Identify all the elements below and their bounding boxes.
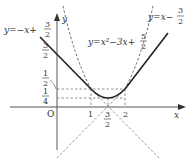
- line-right-label: y=x− 3 2: [147, 6, 184, 26]
- svg-text:1: 1: [43, 87, 48, 96]
- x-tick-1: 1: [88, 110, 93, 119]
- y-tick-1-4: 1 4: [42, 87, 49, 106]
- parabola-solid: [91, 89, 125, 98]
- svg-text:5: 5: [141, 32, 146, 41]
- svg-text:3: 3: [105, 110, 110, 119]
- svg-text:y=x−: y=x−: [147, 12, 173, 22]
- origin-label: O: [47, 109, 54, 119]
- x-axis-label: x: [174, 110, 179, 120]
- y-axis-label: y: [61, 14, 68, 24]
- parabola-dashed: [63, 6, 153, 89]
- svg-text:4: 4: [43, 97, 48, 106]
- x-axis-arrow-icon: [178, 104, 186, 110]
- line-left-label: y=−x+ 3 2: [3, 20, 51, 39]
- x-tick-3-2: 3 2: [104, 110, 111, 129]
- graph-figure: y=−x+ 3 2 y=x− 3 2 y=x²−3x+ 5 2 y x O 3 …: [0, 0, 190, 159]
- svg-text:y=x²−3x+: y=x²−3x+: [87, 37, 135, 47]
- svg-text:2: 2: [43, 51, 48, 60]
- svg-text:2: 2: [45, 30, 50, 39]
- svg-text:3: 3: [45, 20, 50, 29]
- svg-text:2: 2: [141, 42, 146, 51]
- x-tick-2: 2: [123, 110, 128, 119]
- svg-text:3: 3: [178, 6, 183, 15]
- y-axis-arrow-icon: [54, 13, 60, 21]
- parabola-label: y=x²−3x+ 5 2: [87, 32, 147, 51]
- guide-lines: [57, 89, 125, 107]
- y-tick-pointer: [50, 80, 56, 89]
- svg-text:2: 2: [105, 120, 110, 129]
- svg-text:3: 3: [43, 41, 48, 50]
- svg-text:1: 1: [43, 69, 48, 78]
- svg-text:2: 2: [178, 17, 183, 26]
- y-tick-3-2: 3 2: [42, 41, 49, 60]
- y-tick-1-2: 1 2: [42, 69, 49, 88]
- svg-text:y=−x+: y=−x+: [3, 25, 37, 35]
